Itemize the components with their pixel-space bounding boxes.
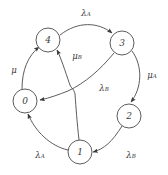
edge-label-1-to-0-sub: A	[40, 153, 45, 159]
node-4[interactable]: 4	[36, 28, 60, 52]
state-transition-diagram: 0 1 2 3 4 λA	[0, 0, 168, 175]
edge-label-1-to-4-sub: B	[77, 54, 82, 60]
edge-label-3-to-0-sub: B	[104, 86, 109, 92]
edge-label-2-to-1-sub: B	[131, 153, 136, 159]
edge-label-0-to-4-base: μ	[11, 65, 17, 75]
node-1[interactable]: 1	[68, 140, 92, 164]
edge-4-to-3	[60, 25, 112, 35]
edge-1-to-4	[57, 50, 79, 140]
edge-3-to-2	[131, 51, 140, 102]
edge-label-3-to-0: λB	[98, 83, 109, 93]
node-4-label: 4	[44, 35, 51, 45]
diagram-canvas: 0 1 2 3 4 λA	[0, 0, 168, 175]
node-3-label: 3	[119, 38, 125, 48]
edge-1-to-0	[28, 114, 68, 150]
edge-label-3-to-2-sub: A	[152, 73, 157, 79]
edge-label-1-to-4: μB	[72, 51, 82, 61]
edge-label-4-to-3: λA	[80, 8, 90, 18]
node-1-label: 1	[77, 147, 83, 157]
edge-0-to-4	[22, 47, 39, 89]
edge-label-0-to-4: μ	[11, 65, 17, 75]
node-2[interactable]: 2	[117, 104, 141, 128]
edge-label-4-to-3-sub: A	[86, 11, 91, 17]
edge-2-to-1	[93, 126, 122, 152]
node-2-label: 2	[125, 111, 132, 121]
edge-label-3-to-2: μA	[147, 70, 157, 80]
node-layer: 0 1 2 3 4	[13, 28, 141, 164]
node-0[interactable]: 0	[13, 89, 37, 113]
edge-label-1-to-0: λA	[34, 150, 44, 160]
node-0-label: 0	[22, 96, 28, 106]
edge-label-2-to-1: λB	[125, 150, 136, 160]
edge-label-layer: λA μA λB λA μ μB λB	[11, 8, 157, 160]
node-3[interactable]: 3	[110, 31, 134, 55]
